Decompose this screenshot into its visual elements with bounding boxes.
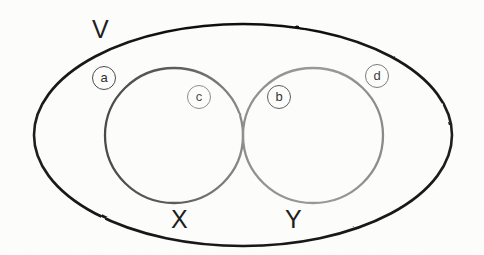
universe-label-v: V	[92, 17, 109, 42]
region-label-a: a	[92, 66, 116, 90]
region-label-d-text: d	[373, 69, 380, 82]
venn-diagram-canvas: V X Y a c b d	[0, 0, 484, 255]
set-label-y: Y	[285, 207, 302, 232]
region-label-c: c	[187, 85, 211, 109]
set-ellipse-y	[243, 68, 383, 203]
region-label-c-text: c	[196, 90, 203, 103]
venn-diagram-graphic	[0, 0, 484, 255]
region-label-d: d	[365, 64, 389, 88]
set-ellipse-x	[105, 68, 243, 203]
region-label-a-text: a	[100, 71, 107, 84]
region-label-b: b	[267, 85, 291, 109]
region-label-b-text: b	[275, 90, 282, 103]
set-label-x: X	[171, 207, 188, 232]
